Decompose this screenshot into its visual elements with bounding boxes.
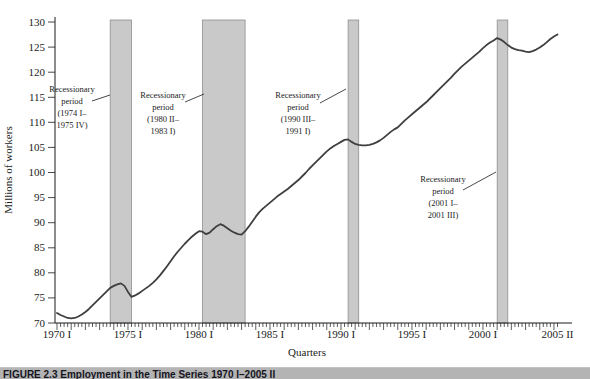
x-tick-label: 2000 I <box>469 328 498 340</box>
figure: 1970 I1975 I1980 I1985 I1990 I1995 I2000… <box>0 0 590 379</box>
recession-annotation: Recessionaryperiod(1990 III–1991 I) <box>275 89 346 136</box>
y-tick-label: 100 <box>29 166 46 178</box>
y-tick-label: 120 <box>29 66 46 78</box>
recession-annotation-line: (1980 II– <box>147 114 180 124</box>
annotation-leader-line <box>463 172 496 190</box>
x-tick-label: 1990 I <box>327 328 356 340</box>
employment-chart: 1970 I1975 I1980 I1985 I1990 I1995 I2000… <box>0 0 590 365</box>
recession-annotation: Recessionaryperiod(1974 I–1975 IV) <box>49 84 110 130</box>
y-tick-label: 115 <box>29 91 46 103</box>
recession-annotation: Recessionaryperiod(2001 I–2001 III) <box>420 172 496 220</box>
recession-annotation-line: 1983 I) <box>151 126 176 136</box>
y-tick-label: 125 <box>29 41 46 53</box>
y-tick-label: 95 <box>34 191 46 203</box>
recession-annotation-line: (1974 I– <box>57 108 87 118</box>
recession-annotation-line: Recessionary <box>420 174 466 184</box>
y-tick-label: 75 <box>34 291 46 303</box>
recession-annotation-line: Recessionary <box>49 84 95 94</box>
figure-caption: FIGURE 2.3 Employment in the Time Series… <box>3 369 275 379</box>
employment-line <box>57 35 558 319</box>
x-axis-title: Quarters <box>288 346 326 358</box>
recession-bands <box>110 20 508 323</box>
recession-band <box>203 20 246 323</box>
y-axis: 707580859095100105110115120125130 <box>29 16 56 329</box>
recession-annotation-line: 2001 III) <box>428 210 459 220</box>
recession-annotation-line: period <box>152 102 174 112</box>
annotation-leader-line <box>320 89 346 103</box>
y-tick-label: 90 <box>34 216 46 228</box>
y-tick-label: 130 <box>29 16 46 28</box>
x-tick-label: 1970 I <box>43 328 72 340</box>
y-tick-label: 105 <box>29 141 46 153</box>
recession-annotation-line: (1990 III– <box>281 114 316 124</box>
recession-annotation-line: Recessionary <box>275 90 321 100</box>
x-tick-label: 1975 I <box>114 328 143 340</box>
x-axis: 1970 I1975 I1980 I1985 I1990 I1995 I2000… <box>43 323 574 340</box>
y-axis-title: Millions of workers <box>2 126 14 213</box>
recession-annotation-line: period <box>432 186 454 196</box>
annotation-leader-line <box>92 95 110 101</box>
y-tick-label: 80 <box>34 266 46 278</box>
y-tick-label: 70 <box>34 317 46 329</box>
x-tick-label: 1995 I <box>398 328 427 340</box>
x-tick-label: 1980 I <box>185 328 214 340</box>
y-tick-label: 85 <box>34 241 46 253</box>
recession-annotation-line: period <box>287 102 309 112</box>
annotation-leader-line <box>185 94 204 102</box>
x-tick-label: 1985 I <box>256 328 285 340</box>
recession-annotation-line: Recessionary <box>140 90 186 100</box>
recession-annotation: Recessionaryperiod(1980 II–1983 I) <box>140 90 204 136</box>
recession-band <box>110 20 131 323</box>
recession-annotation-line: period <box>61 96 83 106</box>
recession-annotation-line: 1975 IV) <box>57 120 88 130</box>
recession-annotation-line: 1991 I) <box>286 126 311 136</box>
recession-annotation-line: (2001 I– <box>428 198 458 208</box>
recession-band <box>348 20 359 323</box>
recession-band <box>497 20 508 323</box>
x-tick-label: 2005 II <box>541 328 573 340</box>
y-tick-label: 110 <box>29 116 46 128</box>
figure-caption-bar: FIGURE 2.3 Employment in the Time Series… <box>0 367 590 379</box>
